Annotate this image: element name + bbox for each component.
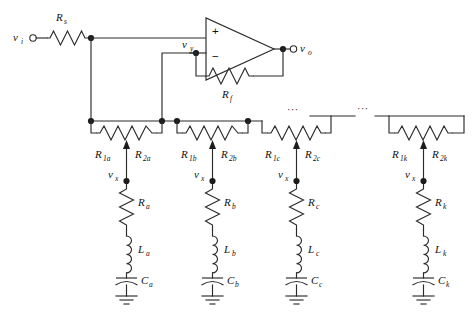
potentiometer-k-wiper-arrowhead xyxy=(420,140,427,149)
potentiometer-a-resistive-track xyxy=(96,126,157,140)
branch-b-pot-right-label: R xyxy=(220,148,228,160)
branch-a-pot-right-subscript: 2a xyxy=(143,154,151,163)
potentiometer-b-resistive-track xyxy=(182,126,243,140)
schematic-svg: v i R s + − v y v o R f ··· ··· xyxy=(0,0,472,313)
branch-a-capacitor-subscript: a xyxy=(149,280,153,289)
branch-a-inductor-symbol xyxy=(127,236,132,273)
feedback-resistor-label: R xyxy=(221,88,229,100)
branch-b-resistor-symbol xyxy=(206,184,220,230)
branch-a-inductor-label: L xyxy=(137,243,144,255)
branch-c-capacitor-subscript: c xyxy=(319,280,323,289)
vy-label: v xyxy=(182,38,187,50)
branch-a-resistor-subscript: a xyxy=(146,202,150,211)
branch-b-inductor-subscript: b xyxy=(232,249,236,258)
potentiometer-c-resistive-track xyxy=(267,126,326,140)
branch-b-pot-right-subscript: 2b xyxy=(229,154,237,163)
circuit-diagram-canvas: v i R s + − v y v o R f ··· ··· xyxy=(0,0,472,313)
branch-b-pot-left-label: R xyxy=(180,148,188,160)
branch-k-vx-subscript: x xyxy=(411,174,416,183)
wire-pot-k-left-leg xyxy=(389,116,394,133)
branch-a-vx-label: v xyxy=(108,168,113,180)
branch-k-pot-left-subscript: 1k xyxy=(400,154,408,163)
branch-c-resistor-subscript: c xyxy=(316,202,320,211)
branch-c-resistor-label: R xyxy=(307,196,315,208)
branch-b-resistor-label: R xyxy=(223,196,231,208)
branch-k-inductor-subscript: k xyxy=(443,249,447,258)
branch-c-inductor-label: L xyxy=(307,243,314,255)
branch-k-inductor-label: L xyxy=(434,243,441,255)
branch-c-vx-subscript: x xyxy=(284,174,289,183)
node-branch-a-vx xyxy=(123,178,129,184)
feedback-resistor-label-subscript: f xyxy=(230,94,233,103)
potentiometer-b-wiper-arrowhead xyxy=(209,140,216,149)
branch-c-vx-label: v xyxy=(278,168,283,180)
branch-a-vx-subscript: x xyxy=(114,174,119,183)
node-branch-c-vx xyxy=(293,178,299,184)
branch-b-resistor-subscript: b xyxy=(232,202,236,211)
branch-k-inductor-symbol xyxy=(424,236,429,273)
output-label: v xyxy=(300,42,305,54)
input-label-subscript: i xyxy=(21,37,23,46)
wire-pot-k-right-leg xyxy=(453,116,464,133)
branch-c-capacitor-label: C xyxy=(311,274,319,286)
wire-pot-c-right-leg xyxy=(326,116,331,133)
branch-a-resistor-symbol xyxy=(120,184,134,230)
ellipsis-bus-k: ··· xyxy=(357,103,369,114)
branch-a-resistor-label: R xyxy=(137,196,145,208)
vy-label-subscript: y xyxy=(189,44,194,53)
potentiometer-c-wiper-arrowhead xyxy=(293,140,300,149)
wire-pot-c-left-leg xyxy=(262,121,267,133)
branch-c-pot-left-subscript: 1c xyxy=(273,154,281,163)
branch-b-inductor-label: L xyxy=(223,243,230,255)
branch-c-pot-left-label: R xyxy=(264,148,272,160)
branch-k-resistor-label: R xyxy=(434,196,442,208)
input-terminal-circle xyxy=(30,35,36,41)
series-resistor-rs-symbol xyxy=(47,31,91,45)
branch-c-inductor-subscript: c xyxy=(316,249,320,258)
branch-k-vx-label: v xyxy=(405,168,410,180)
branch-c-pot-right-label: R xyxy=(304,148,312,160)
branch-k-resistor-subscript: k xyxy=(443,202,447,211)
potentiometer-a-wiper-arrowhead xyxy=(123,140,130,149)
branch-c-pot-right-subscript: 2c xyxy=(313,154,321,163)
node-branch-k-vx xyxy=(420,178,426,184)
ellipsis-bus-c: ··· xyxy=(287,104,299,115)
branch-a-pot-left-label: R xyxy=(94,148,102,160)
branch-k-capacitor-subscript: k xyxy=(446,280,450,289)
branch-b-inductor-symbol xyxy=(213,236,218,273)
branch-a-inductor-subscript: a xyxy=(146,249,150,258)
wire-rf-left-leg xyxy=(196,53,205,76)
branch-k-pot-right-subscript: 2k xyxy=(440,154,448,163)
branch-b-vx-label: v xyxy=(194,168,199,180)
branch-b-vx-subscript: x xyxy=(200,174,205,183)
potentiometer-k-resistive-track xyxy=(394,126,453,140)
opamp-minus-sign: − xyxy=(212,50,219,62)
branch-a-pot-right-label: R xyxy=(134,148,142,160)
branch-a-pot-left-subscript: 1a xyxy=(103,154,111,163)
node-branch-b-vx xyxy=(209,178,215,184)
branch-k-pot-right-label: R xyxy=(431,148,439,160)
branch-c-inductor-symbol xyxy=(297,236,302,273)
output-terminal-circle xyxy=(290,46,296,52)
series-resistor-label: R xyxy=(55,11,63,23)
branch-c-resistor-symbol xyxy=(290,184,304,230)
wire-vy-to-bus xyxy=(162,53,196,121)
branch-k-resistor-symbol xyxy=(417,184,431,230)
output-label-subscript: o xyxy=(308,48,312,57)
opamp-plus-sign: + xyxy=(212,25,219,37)
branch-a-capacitor-label: C xyxy=(141,274,149,286)
branch-k-pot-left-label: R xyxy=(391,148,399,160)
series-resistor-label-subscript: s xyxy=(64,17,67,26)
branch-k-capacitor-label: C xyxy=(438,274,446,286)
branch-b-capacitor-label: C xyxy=(227,274,235,286)
input-label: v xyxy=(13,31,18,43)
branch-b-pot-left-subscript: 1b xyxy=(189,154,197,163)
branch-b-capacitor-subscript: b xyxy=(235,280,239,289)
